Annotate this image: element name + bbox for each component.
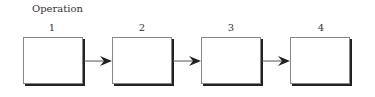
arrow-3-4 — [262, 56, 290, 66]
arrow-2-3 — [173, 56, 201, 66]
arrow-1-2 — [84, 56, 112, 66]
connector-arrows — [0, 0, 375, 97]
